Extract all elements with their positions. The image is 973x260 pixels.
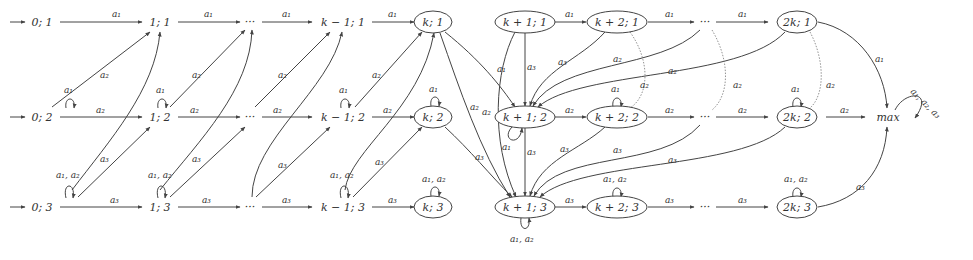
svg-text:a₂: a₂ bbox=[733, 80, 742, 90]
svg-text:a₁: a₁ bbox=[204, 9, 213, 19]
svg-text:a₂: a₂ bbox=[482, 107, 491, 117]
svg-text:a₂: a₂ bbox=[668, 66, 677, 76]
svg-text:a₃: a₃ bbox=[527, 62, 536, 72]
node-0-1: 0; 1 bbox=[31, 16, 52, 29]
svg-text:a₁, a₂: a₁, a₂ bbox=[784, 174, 808, 184]
node-k-3: k; 3 bbox=[423, 201, 444, 214]
node-1-3: 1; 3 bbox=[149, 201, 170, 214]
svg-text:a₁, a₂: a₁, a₂ bbox=[56, 170, 80, 180]
svg-text:a₁: a₁ bbox=[429, 84, 438, 94]
node-kp1-3: k + 1; 3 bbox=[503, 201, 547, 214]
nodes: 0; 1 0; 2 0; 3 1; 1 1; 2 1; 3 ··· ··· ··… bbox=[31, 11, 900, 218]
svg-text:a₁, a₂: a₁, a₂ bbox=[330, 170, 354, 180]
svg-text:a₁, a₂: a₁, a₂ bbox=[603, 174, 627, 184]
node-km1-2: k − 1; 2 bbox=[321, 111, 365, 124]
svg-text:a₃: a₃ bbox=[375, 157, 384, 167]
svg-text:a₁: a₁ bbox=[388, 9, 397, 19]
svg-text:a₃: a₃ bbox=[738, 195, 747, 205]
svg-text:a₃: a₃ bbox=[560, 144, 569, 154]
svg-text:a₁, a₂: a₁, a₂ bbox=[148, 170, 172, 180]
svg-text:a₁: a₁ bbox=[339, 85, 348, 95]
svg-text:a₂: a₂ bbox=[100, 70, 109, 80]
node-dots2-3: ··· bbox=[700, 201, 711, 214]
svg-text:a₃: a₃ bbox=[282, 195, 291, 205]
node-dots-3: ··· bbox=[245, 201, 256, 214]
initial-arrows bbox=[10, 22, 25, 207]
svg-text:a₁: a₁ bbox=[738, 9, 747, 19]
svg-text:a₃: a₃ bbox=[613, 145, 622, 155]
svg-text:a₂: a₂ bbox=[738, 105, 747, 115]
node-dots-1: ··· bbox=[245, 16, 256, 29]
node-1-2: 1; 2 bbox=[149, 111, 170, 124]
svg-text:a₃: a₃ bbox=[665, 195, 674, 205]
svg-text:a₁: a₁ bbox=[875, 54, 884, 64]
left-block-edges bbox=[52, 22, 434, 207]
svg-text:a₃: a₃ bbox=[278, 160, 287, 170]
node-k-2: k; 2 bbox=[423, 111, 444, 124]
node-0-3: 0; 3 bbox=[31, 201, 52, 214]
node-km1-1: k − 1; 1 bbox=[321, 16, 365, 29]
svg-text:a₃: a₃ bbox=[388, 195, 397, 205]
svg-text:a₂: a₂ bbox=[372, 70, 381, 80]
svg-text:a₁: a₁ bbox=[156, 85, 165, 95]
node-dots2-1: ··· bbox=[700, 16, 711, 29]
node-dots2-2: ··· bbox=[700, 111, 711, 124]
svg-text:a₂: a₂ bbox=[192, 70, 201, 80]
svg-text:a₂: a₂ bbox=[640, 80, 649, 90]
svg-text:a₂: a₂ bbox=[665, 105, 674, 115]
svg-text:a₃: a₃ bbox=[527, 147, 536, 157]
svg-text:a₂: a₂ bbox=[278, 70, 287, 80]
svg-text:a₃: a₃ bbox=[565, 195, 574, 205]
svg-text:a₁: a₁ bbox=[502, 142, 511, 152]
svg-text:a₂: a₂ bbox=[840, 105, 849, 115]
svg-text:a₁: a₁ bbox=[611, 84, 620, 94]
svg-text:a₃: a₃ bbox=[100, 154, 109, 164]
svg-text:a₂: a₂ bbox=[826, 80, 835, 90]
automaton-diagram: a₁ a₁ a₁ a₁ a₂ a₂ a₂ a₂ a₃ a₃ a₃ a₃ a₂ a… bbox=[0, 0, 973, 260]
node-dots-2: ··· bbox=[245, 111, 256, 124]
node-kp1-1: k + 1; 1 bbox=[503, 16, 547, 29]
svg-text:a₃: a₃ bbox=[668, 155, 677, 165]
svg-text:a₃: a₃ bbox=[856, 182, 865, 192]
svg-text:a₃: a₃ bbox=[475, 152, 484, 162]
svg-text:a₁: a₁ bbox=[497, 64, 506, 74]
node-kp1-2: k + 1; 2 bbox=[503, 111, 547, 124]
svg-text:a₁, a₂, a₃: a₁, a₂, a₃ bbox=[909, 86, 943, 120]
node-1-1: 1; 1 bbox=[149, 16, 170, 29]
node-kp2-2: k + 2; 2 bbox=[595, 111, 639, 124]
svg-text:a₂: a₂ bbox=[383, 105, 392, 115]
node-max: max bbox=[876, 111, 900, 124]
svg-text:a₂: a₂ bbox=[470, 102, 479, 112]
svg-text:a₃: a₃ bbox=[192, 154, 201, 164]
node-2k-3: 2k; 3 bbox=[782, 201, 811, 214]
svg-text:a₂: a₂ bbox=[96, 105, 105, 115]
svg-text:a₃: a₃ bbox=[110, 195, 119, 205]
svg-text:a₁: a₁ bbox=[665, 9, 674, 19]
svg-text:a₂: a₂ bbox=[565, 105, 574, 115]
svg-text:a₁: a₁ bbox=[64, 85, 73, 95]
node-0-2: 0; 2 bbox=[31, 111, 52, 124]
node-km1-3: k − 1; 3 bbox=[321, 201, 365, 214]
svg-text:a₂: a₂ bbox=[273, 105, 282, 115]
node-2k-2: 2k; 2 bbox=[782, 111, 811, 124]
svg-text:a₁: a₁ bbox=[112, 9, 121, 19]
svg-text:a₁: a₁ bbox=[565, 9, 574, 19]
svg-text:a₂: a₂ bbox=[613, 54, 622, 64]
svg-text:a₃: a₃ bbox=[202, 195, 211, 205]
node-k-1: k; 1 bbox=[423, 16, 444, 29]
node-kp2-1: k + 2; 1 bbox=[595, 16, 639, 29]
svg-text:a₁: a₁ bbox=[791, 84, 800, 94]
svg-text:a₂: a₂ bbox=[190, 105, 199, 115]
node-kp2-3: k + 2; 3 bbox=[595, 201, 639, 214]
svg-text:a₃: a₃ bbox=[558, 57, 567, 67]
svg-text:a₁: a₁ bbox=[282, 9, 291, 19]
svg-text:a₁, a₂: a₁, a₂ bbox=[510, 234, 534, 244]
svg-text:a₁, a₂: a₁, a₂ bbox=[422, 174, 446, 184]
node-2k-1: 2k; 1 bbox=[782, 16, 811, 29]
